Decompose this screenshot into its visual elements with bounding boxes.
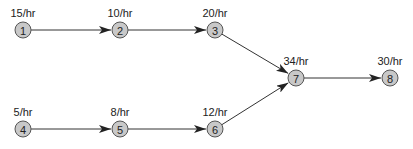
diagram-svg: 15/hr110/hr220/hr35/hr48/hr512/hr634/hr7… bbox=[0, 0, 413, 149]
node-rate-label: 10/hr bbox=[107, 7, 132, 19]
node-8: 30/hr8 bbox=[377, 55, 402, 86]
node-5: 8/hr5 bbox=[111, 106, 130, 137]
node-rate-label: 34/hr bbox=[283, 55, 308, 67]
node-id-label: 4 bbox=[20, 124, 26, 136]
node-id-label: 1 bbox=[20, 25, 26, 37]
node-id-label: 2 bbox=[117, 25, 123, 37]
process-flow-diagram: 15/hr110/hr220/hr35/hr48/hr512/hr634/hr7… bbox=[0, 0, 413, 149]
node-2: 10/hr2 bbox=[107, 7, 132, 38]
node-rate-label: 20/hr bbox=[202, 7, 227, 19]
node-id-label: 8 bbox=[387, 73, 393, 85]
node-6: 12/hr6 bbox=[202, 106, 227, 137]
edge-3-to-7 bbox=[222, 34, 288, 73]
node-7: 34/hr7 bbox=[283, 55, 308, 86]
node-4: 5/hr4 bbox=[14, 106, 33, 137]
node-3: 20/hr3 bbox=[202, 7, 227, 38]
node-rate-label: 8/hr bbox=[111, 106, 130, 118]
node-id-label: 7 bbox=[293, 73, 299, 85]
nodes: 15/hr110/hr220/hr35/hr48/hr512/hr634/hr7… bbox=[10, 7, 402, 137]
node-rate-label: 5/hr bbox=[14, 106, 33, 118]
edge-6-to-7 bbox=[222, 83, 289, 125]
node-rate-label: 12/hr bbox=[202, 106, 227, 118]
node-id-label: 3 bbox=[212, 25, 218, 37]
node-id-label: 5 bbox=[117, 124, 123, 136]
node-rate-label: 30/hr bbox=[377, 55, 402, 67]
node-1: 15/hr1 bbox=[10, 7, 35, 38]
node-id-label: 6 bbox=[212, 124, 218, 136]
node-rate-label: 15/hr bbox=[10, 7, 35, 19]
